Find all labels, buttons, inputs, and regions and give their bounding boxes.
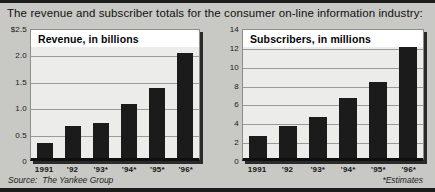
bar-slot[interactable] (115, 30, 143, 158)
headline: The revenue and subscriber totals for th… (7, 7, 423, 19)
bar[interactable] (121, 104, 138, 158)
x-tick-label: '94* (115, 165, 143, 177)
chart-title-banner-subscribers: Subscribers, in millions (243, 30, 423, 47)
plot-area-revenue: Revenue, in billions (30, 29, 200, 161)
bar-slot[interactable] (393, 30, 423, 158)
x-tick-label: 1991 (242, 165, 272, 177)
bar[interactable] (339, 98, 357, 158)
bar-slot[interactable] (303, 30, 333, 158)
chart-title-subscribers: Subscribers, in millions (243, 33, 371, 45)
y-tick-label: 8 (234, 81, 239, 90)
infographic-figure: The revenue and subscriber totals for th… (0, 0, 435, 192)
y-tick-label: 12 (230, 43, 239, 52)
y-tick-label: 0.5 (15, 130, 27, 139)
y-tick-label: 1.5 (15, 77, 27, 86)
bar[interactable] (65, 126, 82, 158)
x-tick-label: '95* (143, 165, 171, 177)
x-tick-label: '92 (272, 165, 302, 177)
bar[interactable] (309, 117, 327, 158)
y-axis-revenue: $2.52.01.51.00.50 (4, 29, 30, 161)
plot-area-subscribers: Subscribers, in millions (242, 29, 424, 161)
y-tick-label: 10 (230, 62, 239, 71)
y-axis-subscribers: 14121086420 (214, 29, 242, 161)
bar[interactable] (177, 53, 194, 158)
bar-slot[interactable] (363, 30, 393, 158)
y-tick-label: 0 (22, 157, 27, 166)
bar[interactable] (93, 123, 110, 158)
x-tick-label: '93* (303, 165, 333, 177)
y-tick-label: 6 (234, 100, 239, 109)
bar-slot[interactable] (31, 30, 59, 158)
x-tick-label: '94* (333, 165, 363, 177)
estimates-footnote: *Estimates (382, 175, 423, 185)
bar-slot[interactable] (273, 30, 303, 158)
y-tick-label: 2.0 (15, 51, 27, 60)
source-name: The Yankee Group (42, 175, 113, 185)
y-tick-label: 0 (234, 157, 239, 166)
bar-slot[interactable] (87, 30, 115, 158)
y-tick-label: $2.5 (11, 25, 27, 34)
y-tick-label: 1.0 (15, 104, 27, 113)
bar-series-subscribers (243, 30, 423, 158)
bar[interactable] (399, 46, 417, 158)
y-tick-label: 2 (234, 138, 239, 147)
bar-series-revenue (31, 30, 199, 158)
bar-slot[interactable] (143, 30, 171, 158)
source-note: Source:The Yankee Group (8, 175, 113, 185)
bar[interactable] (249, 136, 267, 158)
bar-slot[interactable] (171, 30, 199, 158)
y-tick-label: 14 (230, 25, 239, 34)
bar[interactable] (279, 126, 297, 158)
bar-slot[interactable] (243, 30, 273, 158)
x-tick-label: '96* (172, 165, 200, 177)
bar[interactable] (37, 143, 54, 158)
bar-slot[interactable] (333, 30, 363, 158)
chart-title-banner-revenue: Revenue, in billions (31, 30, 199, 47)
bar[interactable] (149, 88, 166, 158)
chart-title-revenue: Revenue, in billions (31, 33, 139, 45)
bar-slot[interactable] (59, 30, 87, 158)
bar[interactable] (369, 82, 387, 158)
source-label: Source: (8, 175, 37, 185)
y-tick-label: 4 (234, 119, 239, 128)
